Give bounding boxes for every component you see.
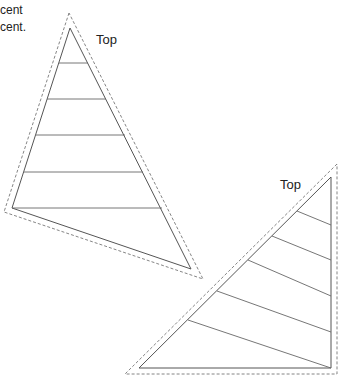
stripe [217, 291, 331, 332]
triangle-right [125, 164, 337, 374]
cut-line-dashed [125, 164, 337, 374]
top-label-triangle-2: Top [280, 177, 301, 192]
triangle-upright [4, 13, 203, 279]
triangle-outline [139, 177, 331, 368]
triangle-outline [12, 28, 191, 269]
stripe [248, 260, 331, 296]
top-label-triangle-1: Top [96, 32, 117, 47]
stripe [188, 320, 331, 368]
stripe [272, 236, 331, 260]
stripe [297, 211, 331, 225]
